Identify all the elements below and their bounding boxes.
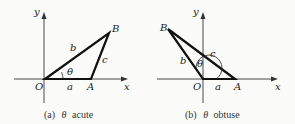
x-axis-label: x <box>275 81 281 92</box>
side-b-label: b <box>70 42 76 53</box>
figure-b-obtuse: y x O A B a b c θ (b) θ obtuse <box>157 6 281 121</box>
caption-text: obtuse <box>214 109 241 120</box>
side-b-label: b <box>180 55 186 66</box>
point-A-label: A <box>86 81 94 92</box>
caption-b: (b) θ obtuse <box>185 109 240 121</box>
point-A-label: A <box>233 81 241 92</box>
caption-a: (a) θ acute <box>44 109 94 121</box>
caption-symbol: θ <box>203 109 208 120</box>
x-axis-label: x <box>124 81 130 92</box>
point-B-label: B <box>159 22 167 33</box>
caption-prefix: (b) <box>185 109 197 121</box>
side-a-label: a <box>67 81 73 92</box>
theta-label: θ <box>67 66 73 77</box>
side-a-label: a <box>215 81 221 92</box>
side-c-label: c <box>102 54 108 65</box>
y-axis-arrow-icon <box>42 12 47 19</box>
y-axis-label: y <box>192 6 199 17</box>
triangle-OAB <box>45 33 109 79</box>
side-c-label: c <box>210 48 216 59</box>
caption-symbol: θ <box>62 109 67 120</box>
y-axis-arrow-icon <box>201 12 206 19</box>
theta-label: θ <box>197 58 203 69</box>
point-O-label: O <box>193 81 201 92</box>
y-axis-label: y <box>33 6 40 17</box>
triangle-diagram: y x O A B a b c θ (a) θ acute y x O A B … <box>0 0 295 124</box>
point-O-label: O <box>35 81 43 92</box>
diagram-canvas: y x O A B a b c θ (a) θ acute y x O A B … <box>0 0 295 124</box>
caption-text: acute <box>72 109 94 120</box>
triangle-OAB <box>168 29 235 79</box>
figure-a-acute: y x O A B a b c θ (a) θ acute <box>14 6 130 121</box>
caption-prefix: (a) <box>44 109 55 121</box>
point-B-label: B <box>111 23 119 34</box>
